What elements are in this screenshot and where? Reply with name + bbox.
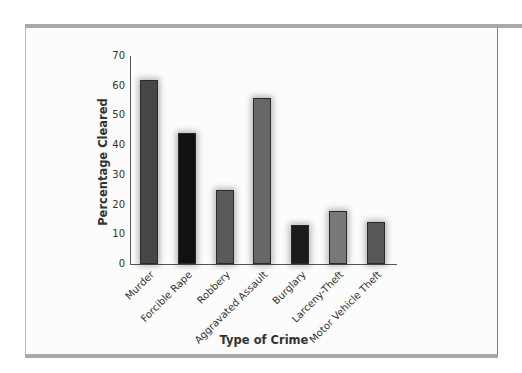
bar-murder — [140, 80, 158, 264]
y-tick-label: 60 — [101, 81, 125, 91]
y-axis-line — [130, 56, 131, 265]
bar-robbery — [216, 190, 234, 264]
bar-burglary — [291, 225, 309, 264]
bar-larceny-theft — [329, 211, 347, 264]
bar-forcible-rape — [178, 133, 196, 264]
frame-right-border — [497, 28, 498, 354]
y-axis-title: Percentage Cleared — [96, 98, 110, 226]
frame-bottom-border — [25, 354, 498, 358]
bar-motor-vehicle-theft — [367, 222, 385, 264]
bar-aggravated-assault — [253, 98, 271, 264]
y-tick-label: 10 — [101, 229, 125, 239]
frame-top-border — [25, 24, 522, 28]
y-tick-label: 70 — [101, 51, 125, 61]
x-axis-title: Type of Crime — [220, 333, 309, 347]
x-axis-line — [130, 264, 397, 265]
y-tick-label: 0 — [101, 259, 125, 269]
frame-left-border — [25, 28, 26, 354]
